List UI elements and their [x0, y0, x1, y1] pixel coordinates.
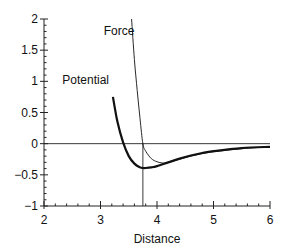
- y-tick-label: 1: [31, 74, 38, 88]
- tick-labels: −1−0.500.511.5223456: [14, 12, 273, 227]
- x-tick-label: 3: [97, 213, 104, 227]
- x-axis-label: Distance: [134, 232, 181, 246]
- potential-label: Potential: [62, 73, 109, 87]
- y-tick-label: −0.5: [14, 168, 38, 182]
- y-tick-label: 0.5: [21, 106, 38, 120]
- y-tick-label: 2: [31, 12, 38, 26]
- axis-ticks: [40, 19, 270, 209]
- potential-force-chart: −1−0.500.511.5223456 ForcePotential Dist…: [0, 0, 286, 252]
- potential-curve: [113, 97, 270, 168]
- y-tick-label: −1: [24, 199, 38, 213]
- x-tick-label: 2: [41, 213, 48, 227]
- force-label: Force: [104, 24, 135, 38]
- x-tick-label: 5: [210, 213, 217, 227]
- y-tick-label: 0: [31, 137, 38, 151]
- y-tick-label: 1.5: [21, 43, 38, 57]
- force-curve: [132, 19, 270, 163]
- x-tick-label: 4: [154, 213, 161, 227]
- annotations: ForcePotential: [62, 24, 134, 88]
- data-series: [113, 19, 270, 168]
- axes: [44, 19, 270, 206]
- x-tick-label: 6: [267, 213, 274, 227]
